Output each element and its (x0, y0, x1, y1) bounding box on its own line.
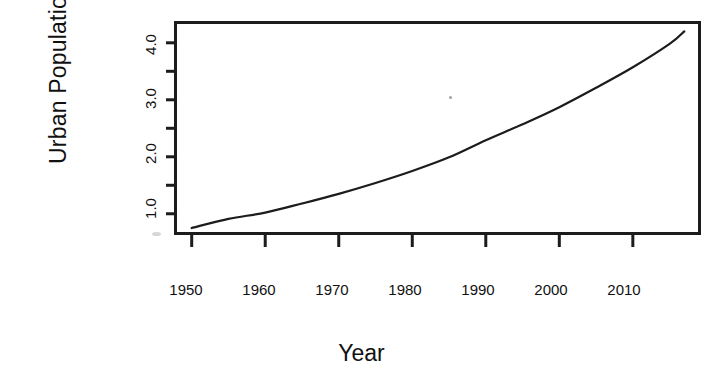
series-line-urban-population (192, 31, 685, 228)
x-axis-ticks (192, 234, 633, 247)
chart-figure: Urban Population Year 4.0 3.0 2.0 1.0 19… (0, 0, 723, 390)
scan-speck (152, 232, 161, 236)
plot-frame (176, 23, 700, 234)
plot-area (0, 0, 723, 390)
scan-speck (449, 96, 452, 99)
